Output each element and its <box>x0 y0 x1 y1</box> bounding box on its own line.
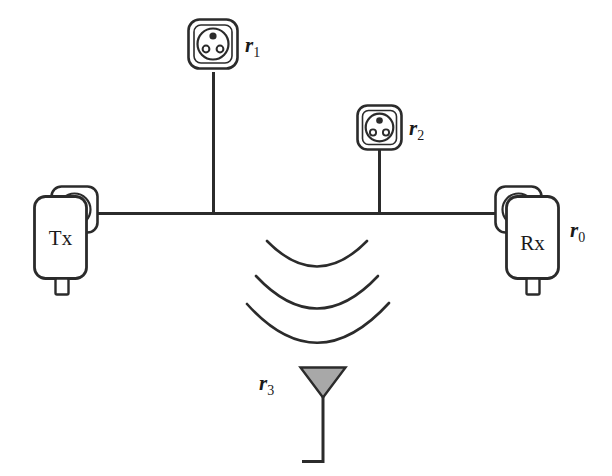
powerline-network-diagram: r1 r2 Tx <box>0 0 612 476</box>
socket-r1-live-pin <box>203 46 210 53</box>
socket-r2-live-pin <box>370 129 376 135</box>
wave-arc-middle <box>256 276 378 309</box>
socket-r2-earth-pin <box>376 117 383 124</box>
socket-r1-label: r1 <box>245 33 260 60</box>
rx-adapter[interactable]: Rx r0 <box>496 187 586 295</box>
tx-plug-prong <box>56 279 69 295</box>
diagram-canvas: r1 r2 Tx <box>0 0 612 476</box>
antenna-wave-arcs <box>247 241 389 343</box>
rx-plug-prong <box>527 279 540 295</box>
rx-node-label: r0 <box>570 218 585 245</box>
socket-r2[interactable]: r2 <box>358 106 425 150</box>
power-line-bus <box>88 72 506 214</box>
antenna-dipole-triangle <box>301 368 346 398</box>
socket-r1-earth-pin <box>209 32 216 39</box>
socket-r2-label: r2 <box>409 116 424 143</box>
tx-adapter[interactable]: Tx <box>35 187 98 295</box>
socket-r2-neutral-pin <box>383 129 389 135</box>
antenna-r3[interactable]: r3 <box>259 368 346 464</box>
socket-r1[interactable]: r1 <box>189 20 261 69</box>
tx-label: Tx <box>49 226 73 250</box>
antenna-r3-label: r3 <box>259 371 274 398</box>
rx-label: Rx <box>520 231 545 255</box>
wave-arc-inner <box>267 241 367 267</box>
socket-r1-neutral-pin <box>217 46 224 53</box>
